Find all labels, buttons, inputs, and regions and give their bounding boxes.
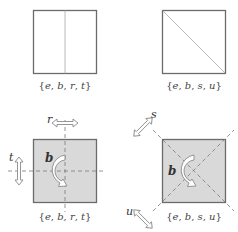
label-b: b bbox=[168, 164, 176, 178]
panel-top-right: {e, b, s, u} bbox=[163, 11, 226, 92]
reflection-arrow-u-icon bbox=[131, 207, 155, 231]
symmetry-diagram: {e, b, r, t} {e, b, s, u} r t b {e, bbox=[0, 0, 238, 232]
label-s: s bbox=[151, 108, 157, 121]
label-r: r bbox=[47, 113, 53, 126]
panel-top-left: {e, b, r, t} bbox=[34, 11, 97, 92]
set-label-top-left: {e, b, r, t} bbox=[39, 80, 92, 91]
panel-bottom-right: s u b {e, b, s, u} bbox=[126, 108, 234, 231]
label-u: u bbox=[126, 205, 133, 218]
set-label-bottom-right: {e, b, s, u} bbox=[166, 211, 222, 222]
label-t: t bbox=[9, 151, 14, 164]
panel-bottom-left: r t b {e, b, r, t} bbox=[8, 113, 105, 222]
label-b: b bbox=[45, 151, 53, 165]
set-label-bottom-left: {e, b, r, t} bbox=[39, 211, 92, 222]
set-label-top-right: {e, b, s, u} bbox=[166, 80, 222, 91]
